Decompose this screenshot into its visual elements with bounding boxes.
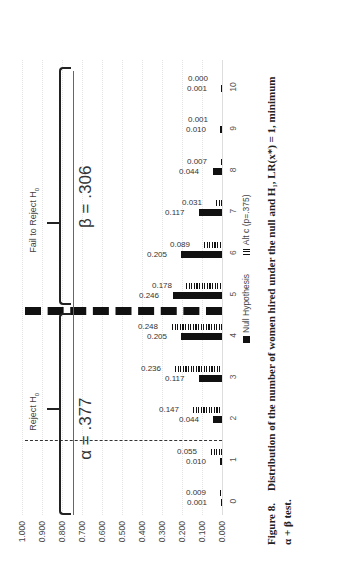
value-label-null: 0.044: [179, 167, 199, 176]
value-label-alt: 0.007: [187, 157, 207, 166]
value-label-alt: 0.178: [152, 281, 172, 290]
value-label-null: 0.117: [165, 374, 184, 383]
y-tick-label: 0.800: [57, 521, 67, 561]
rotated-figure: 1.0000.9000.8000.7000.6000.5000.4000.300…: [0, 0, 352, 565]
value-label-alt: 0.147: [159, 405, 179, 414]
gridline: [142, 60, 143, 515]
legend-label-null: Null Hypothesis: [241, 274, 251, 333]
bar-null-hypothesis: [181, 251, 222, 258]
category-label: 3: [228, 367, 238, 387]
alpha-value: α = .377: [76, 397, 96, 459]
alpha-cutoff-line: [25, 440, 222, 441]
y-tick-label: 0.200: [177, 521, 187, 561]
value-label-alt: 0.031: [182, 198, 202, 207]
bar-null-hypothesis: [181, 333, 222, 340]
category-label: 7: [228, 201, 238, 221]
bar-alt-hypothesis: [216, 200, 222, 206]
value-label-alt: 0.055: [177, 447, 197, 456]
fail-bracket-tip: [47, 222, 59, 224]
category-label: 5: [228, 284, 238, 304]
x-axis-baseline: [222, 60, 223, 515]
y-tick-label: 0.700: [77, 521, 87, 561]
category-label: 1: [228, 450, 238, 470]
value-label-null: 0.044: [179, 415, 199, 424]
bar-null-hypothesis: [221, 85, 222, 92]
legend-swatch-alt: [243, 248, 250, 255]
bar-null-hypothesis: [221, 499, 222, 506]
legend-swatch-null: [243, 336, 250, 343]
caption-text: Distribution of the number of women hire…: [265, 77, 277, 491]
category-label: 0: [228, 491, 238, 511]
bar-alt-hypothesis: [193, 407, 222, 413]
category-label: 4: [228, 325, 238, 345]
gridline: [122, 60, 123, 515]
value-label-null: 0.117: [165, 208, 184, 217]
value-label-null: 0.246: [139, 291, 159, 300]
fail-to-reject-h0-label: Fail to Reject H0: [28, 188, 40, 253]
bar-alt-hypothesis: [221, 159, 222, 165]
category-label: 9: [228, 118, 238, 138]
beta-value: β = .306: [76, 166, 96, 228]
bar-null-hypothesis: [220, 126, 222, 133]
legend: Null Hypothesis Alt c (p=.375): [241, 194, 251, 343]
bar-null-hypothesis: [220, 458, 222, 465]
bar-alt-hypothesis: [175, 366, 222, 372]
category-label: 2: [228, 408, 238, 428]
range-arrow-line: [73, 71, 74, 515]
reject-bracket-tip: [47, 408, 59, 410]
value-label-null: 0.010: [186, 457, 206, 466]
y-tick-label: 0.100: [197, 521, 207, 561]
bar-alt-hypothesis: [211, 449, 222, 455]
figure-caption-line1: Figure 8.Distribution of the number of w…: [265, 77, 277, 545]
reject-h0-label: Reject H0: [28, 393, 40, 431]
caption-text-2: α + β test.: [281, 499, 293, 545]
value-label-alt: 0.001: [188, 115, 208, 124]
figure-caption-line2: α + β test.: [281, 499, 293, 545]
value-label-null: 0.205: [147, 332, 167, 341]
figure-label: Figure 8.: [265, 503, 277, 545]
y-tick-label: 0.900: [37, 521, 47, 561]
bar-chart: 1.0000.9000.8000.7000.6000.5000.4000.300…: [0, 0, 260, 565]
value-label-null: 0.001: [187, 498, 207, 507]
gridline: [42, 60, 43, 515]
gridline: [22, 60, 23, 515]
bar-alt-hypothesis: [186, 283, 222, 289]
bar-null-hypothesis: [213, 168, 222, 175]
category-label: 8: [228, 160, 238, 180]
y-tick-label: 0.000: [217, 521, 227, 561]
fail-to-reject-bracket: [59, 67, 71, 305]
bar-null-hypothesis: [199, 375, 222, 382]
category-label: 10: [228, 77, 238, 97]
reject-bracket: [59, 313, 71, 515]
y-tick-label: 0.300: [157, 521, 167, 561]
y-tick-label: 0.600: [97, 521, 107, 561]
legend-label-alt: Alt c (p=.375): [241, 194, 251, 245]
y-tick-label: 0.500: [117, 521, 127, 561]
value-label-alt: 0.009: [186, 488, 206, 497]
value-label-alt: 0.248: [138, 322, 158, 331]
value-label-alt: 0.236: [141, 364, 161, 373]
value-label-null: 0.001: [187, 84, 207, 93]
value-label-alt: 0.000: [188, 74, 208, 83]
bar-alt-hypothesis: [204, 242, 222, 248]
y-tick-label: 0.400: [137, 521, 147, 561]
value-label-null: 0.010: [186, 125, 206, 134]
bar-alt-hypothesis: [220, 490, 222, 496]
gridline: [102, 60, 103, 515]
value-label-alt: 0.089: [170, 240, 190, 249]
decision-cutoff-line: [25, 307, 222, 315]
bar-null-hypothesis: [199, 209, 222, 216]
category-label: 6: [228, 243, 238, 263]
bar-null-hypothesis: [173, 292, 222, 299]
bar-null-hypothesis: [213, 416, 222, 423]
y-tick-label: 1.000: [17, 521, 27, 561]
bar-alt-hypothesis: [172, 324, 222, 330]
value-label-null: 0.205: [147, 250, 167, 259]
